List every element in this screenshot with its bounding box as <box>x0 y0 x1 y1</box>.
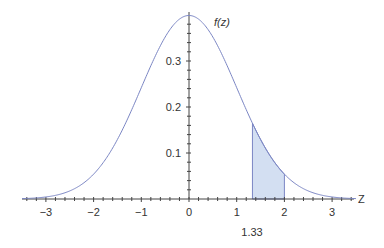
x-tick-label: 1 <box>234 206 240 218</box>
annotation-1-33: 1.33 <box>241 226 262 238</box>
x-tick-label: −1 <box>135 206 148 218</box>
y-tick-label: 0.2 <box>166 101 181 113</box>
x-axis-label: Z <box>358 193 365 205</box>
x-tick-label: 2 <box>281 206 287 218</box>
y-axis-label: f(z) <box>214 16 230 28</box>
shaded-area <box>252 123 284 199</box>
x-tick-label: −2 <box>87 206 100 218</box>
y-tick-label: 0.3 <box>166 55 181 67</box>
x-tick-label: −3 <box>40 206 53 218</box>
y-tick-label: 0.1 <box>166 147 181 159</box>
x-tick-label: 3 <box>329 206 335 218</box>
normal-distribution-chart: −3−2−101230.10.20.3 f(z) Z 1.33 <box>0 0 384 248</box>
axes <box>22 12 354 202</box>
x-tick-label: 0 <box>186 206 192 218</box>
